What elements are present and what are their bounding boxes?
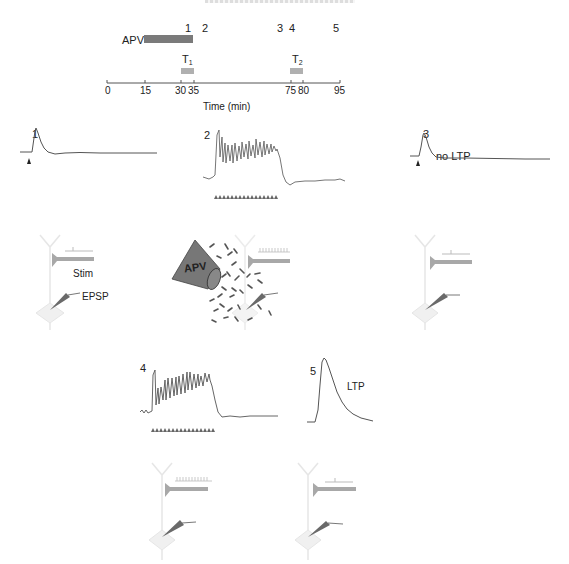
tick-30: 30	[175, 86, 186, 96]
epsp-trace-5	[295, 350, 385, 430]
stim-label: Stim	[73, 269, 93, 279]
stim-train-icon	[214, 195, 278, 199]
tick-75: 75	[285, 86, 296, 96]
neuron-diagram	[290, 455, 390, 564]
tick-35: 35	[188, 86, 199, 96]
neuron-diagram	[0, 225, 130, 335]
neuron-diagram	[400, 225, 530, 335]
tetanus-trace-4	[130, 360, 290, 450]
tick-0: 0	[105, 86, 111, 96]
stim-arrowhead-icon	[416, 160, 420, 166]
epsp-trace-3	[395, 125, 569, 205]
stim-train-icon	[151, 428, 215, 432]
neuron-diagram	[130, 455, 230, 564]
apv-application-diagram	[140, 225, 290, 335]
tick-95: 95	[334, 86, 345, 96]
axis-label: Time (min)	[203, 102, 250, 112]
tetanus-trace-2	[195, 125, 355, 210]
epsp-label: EPSP	[82, 292, 109, 302]
tick-15: 15	[140, 86, 151, 96]
epsp-trace-1	[0, 125, 180, 205]
tick-80: 80	[298, 86, 309, 96]
stim-arrowhead-icon	[27, 158, 31, 164]
